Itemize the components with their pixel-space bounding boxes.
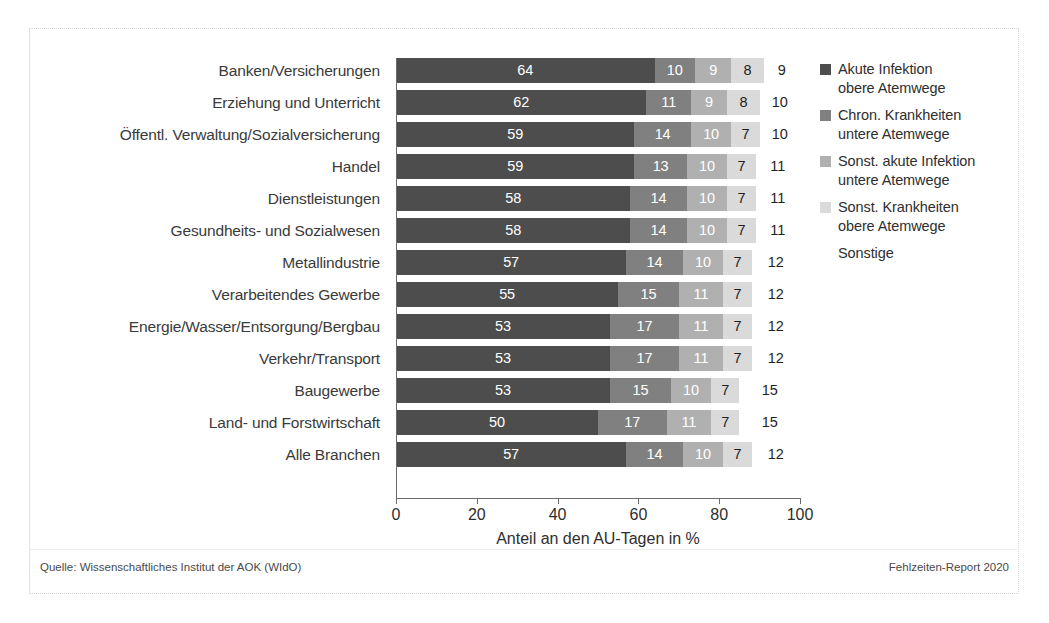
bar-value-label: 7 [741,127,749,142]
legend-item[interactable]: Sonstige [820,244,1030,263]
bar-segment: 55 [396,282,618,307]
legend-swatch-icon [820,202,831,213]
bar-value-label: 58 [505,223,521,238]
bar-segment: 13 [634,154,687,179]
bar-segment: 12 [752,314,800,339]
bar-value-label: 62 [513,95,529,110]
bar-row: 531711712 [396,314,800,339]
category-label: Banken/Versicherungen [30,58,388,83]
bar-segment: 11 [679,282,723,307]
category-axis-labels: Banken/VersicherungenErziehung und Unter… [30,58,388,498]
bar-value-label: 7 [733,351,741,366]
x-tick-mark [638,498,639,504]
bar-row: 531510715 [396,378,800,403]
legend-item[interactable]: Chron. Krankheiten untere Atemwege [820,106,1030,143]
bar-segment: 59 [396,154,634,179]
bar-value-label: 57 [503,447,519,462]
bar-value-label: 7 [721,383,729,398]
bar-value-label: 7 [733,447,741,462]
bar-segment: 14 [626,250,683,275]
category-label: Öffentl. Verwaltung/Sozialversicherung [30,122,388,147]
bar-segment: 15 [739,410,800,435]
bar-segment: 7 [723,346,751,371]
bar-value-label: 7 [737,223,745,238]
bar-segment: 17 [610,346,679,371]
bar-segment: 11 [679,346,723,371]
x-axis-title: Anteil an den AU-Tagen in % [396,530,800,548]
legend-swatch-icon [820,156,831,167]
bar-segment: 7 [727,186,755,211]
bar-value-label: 53 [495,383,511,398]
bar-value-label: 58 [505,191,521,206]
bar-segment: 11 [667,410,711,435]
bar-segment: 58 [396,218,630,243]
bar-value-label: 12 [768,447,784,462]
bar-value-label: 11 [770,223,785,238]
bar-segment: 64 [396,58,655,83]
chart-legend: Akute Infektion obere AtemwegeChron. Kra… [820,60,1030,272]
x-tick-label: 0 [392,506,401,524]
bar-value-label: 11 [694,351,709,366]
bar-segment: 53 [396,378,610,403]
bar-segment: 7 [723,282,751,307]
bar-value-label: 15 [632,383,648,398]
bar-value-label: 15 [762,383,778,398]
bar-row: 501711715 [396,410,800,435]
bar-value-label: 10 [699,159,715,174]
category-label: Gesundheits- und Sozialwesen [30,218,388,243]
bar-segment: 7 [723,442,751,467]
bar-segment: 14 [626,442,683,467]
bar-row: 581410711 [396,218,800,243]
bar-value-label: 10 [772,95,788,110]
bar-segment: 17 [610,314,679,339]
legend-label: Sonst. akute Infektion untere Atemwege [838,152,975,189]
bar-value-label: 15 [641,287,657,302]
x-tick-label: 40 [549,506,567,524]
bar-row: 591410710 [396,122,800,147]
legend-label: Chron. Krankheiten untere Atemwege [838,106,961,143]
x-tick-mark [477,498,478,504]
y-axis-line [396,58,397,498]
plot-area: 6410989621198105914107105913107115814107… [396,58,800,498]
bar-segment: 7 [727,218,755,243]
report-note: Fehlzeiten-Report 2020 [889,561,1009,573]
bar-segment: 7 [711,410,739,435]
bar-value-label: 17 [636,319,652,334]
category-label: Dienstleistungen [30,186,388,211]
legend-item[interactable]: Akute Infektion obere Atemwege [820,60,1030,97]
x-tick-label: 20 [468,506,486,524]
legend-item[interactable]: Sonst. Krankheiten obere Atemwege [820,198,1030,235]
bar-segment: 15 [610,378,671,403]
bar-value-label: 9 [778,63,786,78]
legend-label: Sonst. Krankheiten obere Atemwege [838,198,959,235]
bar-value-label: 12 [768,287,784,302]
x-tick-label: 100 [787,506,814,524]
bar-segment: 10 [683,442,723,467]
bar-segment: 12 [752,346,800,371]
bar-row: 531711712 [396,346,800,371]
bar-segment: 9 [695,58,731,83]
bar-value-label: 8 [743,63,751,78]
bar-segment: 7 [727,154,755,179]
category-label: Alle Branchen [30,442,388,467]
x-tick-mark [396,498,397,504]
legend-swatch-icon [820,64,831,75]
bar-value-label: 12 [768,255,784,270]
bar-segment: 7 [723,314,751,339]
bar-segment: 8 [727,90,759,115]
category-label: Energie/Wasser/Entsorgung/Bergbau [30,314,388,339]
footer-divider [29,549,1019,550]
bar-row: 551511712 [396,282,800,307]
bar-segment: 10 [760,122,800,147]
bar-value-label: 10 [703,127,719,142]
bar-segment: 11 [756,154,800,179]
legend-item[interactable]: Sonst. akute Infektion untere Atemwege [820,152,1030,189]
bar-value-label: 55 [499,287,515,302]
bar-value-label: 12 [768,319,784,334]
bar-segment: 14 [634,122,691,147]
category-label: Baugewerbe [30,378,388,403]
category-label: Verkehr/Transport [30,346,388,371]
bar-value-label: 59 [507,159,523,174]
category-label: Land- und Forstwirtschaft [30,410,388,435]
bar-segment: 12 [752,250,800,275]
